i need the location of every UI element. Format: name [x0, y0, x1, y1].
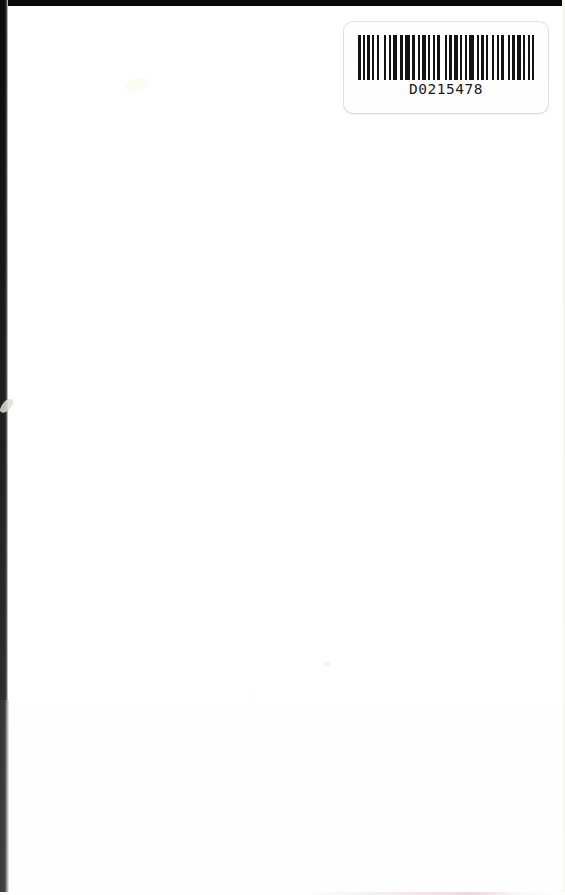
- scan-edge-left-lower: [0, 700, 9, 895]
- barcode-bars: [358, 35, 534, 80]
- barcode-label[interactable]: D0215478: [344, 22, 548, 113]
- barcode-number: D0215478: [344, 81, 548, 97]
- scanned-page: D0215478: [0, 0, 565, 895]
- paper-sheet: [0, 0, 565, 895]
- scan-edge-top: [0, 0, 565, 6]
